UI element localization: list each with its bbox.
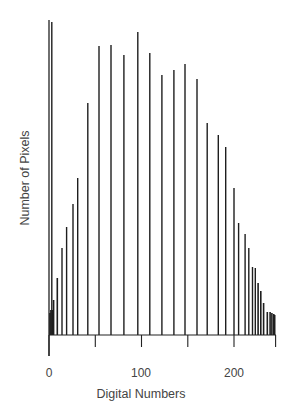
histogram-bars [50, 22, 275, 335]
x-axis-ticks [49, 335, 276, 356]
y-axis-label: Number of Pixels [18, 130, 32, 225]
x-tick-label-100: 100 [131, 366, 151, 380]
histogram-chart: Number of Pixels Digital Numbers 0 100 2… [0, 0, 297, 411]
x-tick-label-200: 200 [224, 366, 244, 380]
x-axis-label: Digital Numbers [97, 387, 186, 401]
plot-area [0, 0, 297, 411]
x-tick-label-0: 0 [46, 366, 53, 380]
